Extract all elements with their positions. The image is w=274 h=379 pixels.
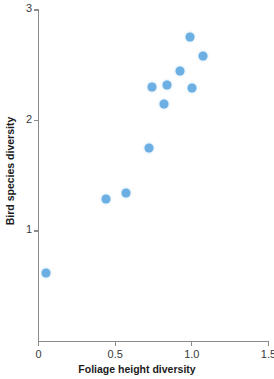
x-axis-line [38, 341, 269, 342]
data-point [187, 84, 196, 93]
data-point [147, 83, 156, 92]
data-point [101, 194, 110, 203]
x-tick-label-1.5: 1.5 [261, 348, 274, 360]
data-point [121, 189, 130, 198]
data-point [42, 268, 51, 277]
x-axis-title: Foliage height diversity [0, 363, 274, 375]
x-tick-label-0: 0 [35, 348, 41, 360]
x-tick-label-1.0: 1.0 [184, 348, 199, 360]
y-tick-label-1: 1 [26, 223, 32, 235]
y-tick-label-3: 3 [26, 2, 32, 14]
y-axis-line [38, 10, 39, 342]
data-point [186, 32, 195, 41]
y-axis-title-container: Bird species diversity [0, 0, 20, 342]
scatter-plot-figure: 123 00.51.01.5 Bird species diversity Fo… [0, 0, 274, 379]
x-tick-1.0 [191, 341, 192, 346]
plot-area [0, 0, 274, 379]
x-tick-0 [38, 341, 39, 346]
data-point [175, 66, 184, 75]
y-tick-2 [34, 120, 39, 121]
y-axis-title: Bird species diversity [4, 117, 16, 226]
data-point [160, 99, 169, 108]
y-tick-label-2: 2 [26, 113, 32, 125]
x-tick-1.5 [268, 341, 269, 346]
x-tick-label-0.5: 0.5 [108, 348, 123, 360]
data-point [198, 52, 207, 61]
x-tick-0.5 [115, 341, 116, 346]
y-tick-3 [34, 9, 39, 10]
data-point [163, 81, 172, 90]
data-point [144, 144, 153, 153]
y-tick-1 [34, 230, 39, 231]
